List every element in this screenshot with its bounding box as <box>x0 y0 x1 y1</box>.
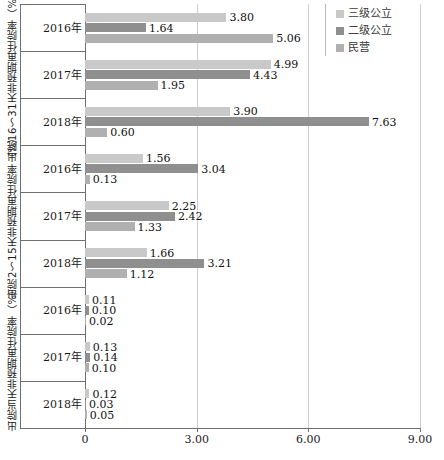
x-tick-label: 0 <box>82 433 89 446</box>
bar-value-label: 0.60 <box>110 127 135 138</box>
legend-swatch-icon <box>336 27 344 35</box>
panel-separator <box>20 145 85 146</box>
category-separator <box>20 334 85 335</box>
x-tick-0 <box>85 428 86 432</box>
category-label-2017年: 2017年 <box>34 68 82 81</box>
legend-label: 二级公立 <box>348 25 392 37</box>
bar-value-label: 0.10 <box>92 362 117 373</box>
bar-value-label: 1.64 <box>149 22 174 33</box>
bar-value-label: 4.43 <box>253 69 278 80</box>
category-label-2017年: 2017年 <box>34 351 82 364</box>
bar-value-label: 1.33 <box>138 221 163 232</box>
legend: 三级公立二级公立民营 <box>336 8 392 54</box>
x-tick-3.00 <box>197 428 198 432</box>
category-label-2016年: 2016年 <box>34 304 82 317</box>
bar-二级公立-2017年 <box>85 353 90 362</box>
gridline-9.00 <box>420 4 421 428</box>
bar-三级公立-2018年 <box>85 248 147 257</box>
bar-二级公立-2016年 <box>85 23 146 32</box>
bar-三级公立-2018年 <box>85 107 230 116</box>
bar-民营-2018年 <box>85 128 107 137</box>
bar-value-label: 1.66 <box>150 247 175 258</box>
x-tick-6.00 <box>308 428 309 432</box>
legend-swatch-icon <box>336 10 344 18</box>
category-separator <box>20 240 85 241</box>
bar-chart: 03.006.009.00 出院16～31天非预期再住院率（%）2016年3.8… <box>0 0 444 460</box>
category-label-2016年: 2016年 <box>34 162 82 175</box>
legend-swatch-icon <box>336 44 344 52</box>
bar-value-label: 5.06 <box>276 33 301 44</box>
legend-label: 三级公立 <box>348 8 392 20</box>
bar-value-label: 0.13 <box>93 174 118 185</box>
bar-三级公立-2016年 <box>85 295 89 304</box>
legend-item-三级公立[interactable]: 三级公立 <box>336 8 392 20</box>
bar-value-label: 0.05 <box>90 409 115 420</box>
legend-item-民营[interactable]: 民营 <box>336 42 392 54</box>
panel-axis-title-text: 出院当天非预期再住院率（%） <box>7 284 19 431</box>
bar-民营-2017年 <box>85 222 135 231</box>
category-label-2018年: 2018年 <box>34 398 82 411</box>
x-tick-9.00 <box>420 428 421 432</box>
category-label-2018年: 2018年 <box>34 257 82 270</box>
x-tick-label: 3.00 <box>184 433 209 446</box>
x-axis-line <box>20 428 420 429</box>
gridline-6.00 <box>308 4 309 428</box>
bar-value-label: 4.99 <box>274 59 299 70</box>
bar-value-label: 3.90 <box>233 106 258 117</box>
category-label-2016年: 2016年 <box>34 21 82 34</box>
category-label-2018年: 2018年 <box>34 115 82 128</box>
bar-value-label: 2.42 <box>178 211 203 222</box>
bar-value-label: 3.80 <box>229 12 254 23</box>
category-separator <box>20 381 85 382</box>
category-label-2017年: 2017年 <box>34 210 82 223</box>
bar-value-label: 0.02 <box>89 315 114 326</box>
legend-label: 民营 <box>348 42 370 54</box>
bar-二级公立-2018年 <box>85 400 86 409</box>
bar-民营-2016年 <box>85 175 90 184</box>
legend-divider <box>325 4 326 56</box>
bar-value-label: 1.12 <box>130 268 155 279</box>
x-tick-label: 9.00 <box>408 433 433 446</box>
panel-axis-title: 出院2～15天非预期再住院率（%） <box>0 145 26 286</box>
bar-value-label: 3.21 <box>207 258 232 269</box>
panel-axis-title: 出院16～31天非预期再住院率（%） <box>0 4 26 145</box>
bar-民营-2016年 <box>85 316 86 325</box>
bar-三级公立-2017年 <box>85 60 271 69</box>
bar-民营-2016年 <box>85 34 273 43</box>
category-separator <box>20 98 85 99</box>
bar-value-label: 1.56 <box>146 153 171 164</box>
panel-separator <box>20 287 85 288</box>
bar-value-label: 1.95 <box>161 80 186 91</box>
bar-民营-2017年 <box>85 81 158 90</box>
bar-民营-2018年 <box>85 269 127 278</box>
category-separator <box>20 51 85 52</box>
bar-三级公立-2016年 <box>85 154 143 163</box>
bar-三级公立-2017年 <box>85 201 169 210</box>
bar-民营-2018年 <box>85 410 87 419</box>
legend-item-二级公立[interactable]: 二级公立 <box>336 25 392 37</box>
x-tick-label: 6.00 <box>296 433 321 446</box>
bar-value-label: 7.63 <box>372 116 397 127</box>
panel-axis-title-text: 出院2～15天非预期再住院率（%） <box>7 132 19 299</box>
category-separator <box>20 192 85 193</box>
panel-axis-title: 出院当天非预期再住院率（%） <box>0 287 26 428</box>
bar-民营-2017年 <box>85 363 89 372</box>
bar-三级公立-2017年 <box>85 342 90 351</box>
bar-value-label: 3.04 <box>201 163 226 174</box>
